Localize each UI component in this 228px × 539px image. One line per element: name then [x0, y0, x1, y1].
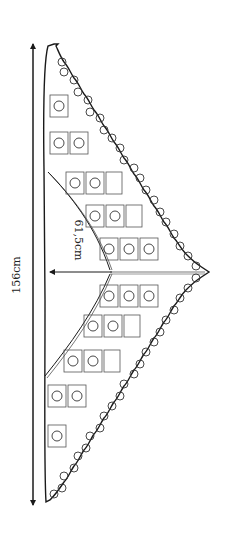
- width-label: 156cm: [10, 256, 23, 294]
- shawl-diagram: 156cm 61,5cm: [0, 0, 228, 539]
- center-spine-lines: [45, 172, 205, 378]
- lace-block-motifs: [48, 95, 158, 447]
- scalloped-edge-spirals: [50, 58, 200, 498]
- depth-label: 61,5cm: [72, 219, 85, 261]
- shawl-outline: [44, 44, 209, 502]
